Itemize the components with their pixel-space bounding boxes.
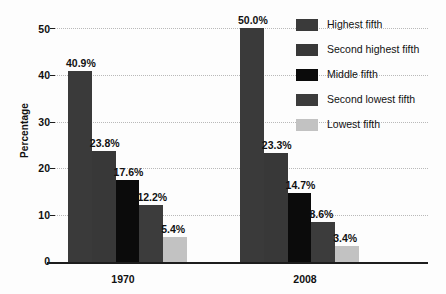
bar-value-label-2008-middle-fifth: 14.7% (286, 180, 316, 191)
legend-swatch-icon-second-lowest-fifth (296, 94, 318, 106)
bar-value-label-1970-highest-fifth: 40.9% (66, 58, 96, 69)
bar-2008-second-lowest-fifth (311, 222, 335, 262)
y-tick-label-20: 20 (24, 163, 50, 174)
bar-1970-highest-fifth (68, 71, 92, 262)
legend-item-second-lowest-fifth: Second lowest fifth (296, 87, 444, 112)
bar-value-label-2008-highest-fifth: 50.0% (238, 15, 268, 26)
legend-label-second-lowest-fifth: Second lowest fifth (327, 94, 415, 105)
bar-2008-highest-fifth (240, 28, 264, 262)
tick-mark-50 (50, 28, 55, 29)
bar-value-label-1970-second-highest-fifth: 23.8% (90, 138, 120, 149)
x-axis-line (47, 262, 428, 264)
x-group-label-2008: 2008 (225, 273, 385, 285)
tick-mark-30 (50, 122, 55, 123)
legend-swatch-icon-second-highest-fifth (296, 44, 318, 56)
legend-item-middle-fifth: Middle fifth (296, 62, 444, 87)
legend-item-highest-fifth: Highest fifth (296, 12, 444, 37)
bar-1970-lowest-fifth (163, 237, 187, 262)
y-tick-label-40: 40 (24, 70, 50, 81)
bar-2008-second-highest-fifth (264, 153, 288, 262)
bar-value-label-1970-middle-fifth: 17.6% (114, 167, 144, 178)
bar-value-label-2008-second-highest-fifth: 23.3% (262, 140, 292, 151)
bar-1970-middle-fifth (116, 180, 140, 262)
legend-item-second-highest-fifth: Second highest fifth (296, 37, 444, 62)
bar-chart: Percentage 50 40 30 20 10 0 40.9%23.8%17… (0, 0, 446, 294)
y-tick-label-10: 10 (24, 210, 50, 221)
bar-value-label-2008-second-lowest-fifth: 8.6% (309, 209, 333, 220)
bar-1970-second-lowest-fifth (139, 205, 163, 262)
bar-2008-lowest-fifth (335, 246, 359, 262)
bar-value-label-2008-lowest-fifth: 3.4% (333, 233, 357, 244)
legend-swatch-icon-highest-fifth (296, 19, 318, 31)
tick-mark-10 (50, 215, 55, 216)
bar-value-label-1970-second-lowest-fifth: 12.2% (137, 192, 167, 203)
legend-label-second-highest-fifth: Second highest fifth (327, 44, 419, 55)
legend-swatch-icon-middle-fifth (296, 69, 318, 81)
bar-1970-second-highest-fifth (92, 151, 116, 262)
legend-label-middle-fifth: Middle fifth (327, 69, 378, 80)
tick-mark-40 (50, 75, 55, 76)
chart-legend: Highest fifth Second highest fifth Middl… (296, 12, 444, 137)
legend-label-highest-fifth: Highest fifth (327, 19, 382, 30)
x-group-label-1970: 1970 (43, 273, 203, 285)
tick-mark-20 (50, 168, 55, 169)
y-tick-label-50: 50 (24, 24, 50, 35)
legend-swatch-icon-lowest-fifth (296, 119, 318, 131)
bar-2008-middle-fifth (288, 193, 312, 262)
y-tick-label-30: 30 (24, 117, 50, 128)
legend-label-lowest-fifth: Lowest fifth (327, 119, 380, 130)
bar-value-label-1970-lowest-fifth: 5.4% (161, 224, 185, 235)
legend-item-lowest-fifth: Lowest fifth (296, 112, 444, 137)
y-axis-ticks: 50 40 30 20 10 0 (20, 0, 50, 294)
